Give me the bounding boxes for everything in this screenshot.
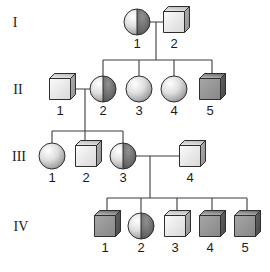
member-II-2-number: 2 [99,103,106,118]
pedigree-member-II-1 [50,74,76,100]
pedigree-member-I-1 [124,9,150,35]
member-III-1-number: 1 [48,170,55,185]
cube-right-face [71,74,76,100]
member-IV-5-number: 5 [241,240,248,255]
member-IV-2-number: 2 [137,240,144,255]
cube-front-face [200,216,221,237]
cube-right-face [221,74,226,100]
pedigree-member-III-3 [110,143,136,169]
member-IV-3-number: 3 [171,240,178,255]
cube-front-face [235,216,256,237]
pedigree-member-I-2 [164,7,190,33]
pedigree-member-IV-4 [200,211,226,237]
cube-front-face [165,216,186,237]
member-I-2-number: 2 [170,36,177,51]
member-II-5-number: 5 [206,103,213,118]
member-III-3-number: 3 [119,170,126,185]
cube-front-face [180,146,201,167]
member-I-1-number: 1 [133,36,140,51]
cube-right-face [97,141,102,167]
pedigree-member-II-5 [200,74,226,100]
pedigree-member-II-4 [161,76,187,102]
pedigree-member-III-2 [76,141,102,167]
cube-right-face [116,211,121,237]
pedigree-member-IV-1 [95,211,121,237]
member-III-2-number: 2 [82,170,89,185]
pedigree-member-IV-3 [165,211,191,237]
carrier-dark-half [123,143,136,169]
generation-label-IV: IV [14,219,29,234]
pedigree-member-II-2 [90,76,116,102]
member-IV-4-number: 4 [206,240,213,255]
pedigree-member-IV-5 [235,211,261,237]
family-connector-lines [52,22,247,226]
pedigree-figure: 1212345123412345IIIIIIIV [0,0,270,272]
pedigree-member-IV-2 [128,213,154,239]
generation-label-I: I [13,15,18,30]
cube-front-face [95,216,116,237]
member-III-4-number: 4 [186,170,193,185]
cube-right-face [185,7,190,33]
cube-right-face [186,211,191,237]
pedigree-member-III-1 [39,143,65,169]
carrier-dark-half [137,9,150,35]
member-shapes [39,7,261,240]
cube-right-face [201,141,206,167]
cube-front-face [50,79,71,100]
generation-label-III: III [12,149,26,164]
cube-front-face [200,79,221,100]
cube-front-face [164,12,185,33]
cube-front-face [76,146,97,167]
pedigree-chart-svg: 1212345123412345IIIIIIIV [0,0,270,272]
carrier-dark-half [141,213,154,239]
cube-right-face [256,211,261,237]
carrier-dark-half [103,76,116,102]
generation-label-II: II [13,82,23,97]
cube-right-face [221,211,226,237]
member-II-4-number: 4 [170,103,177,118]
pedigree-member-III-4 [180,141,206,167]
member-II-3-number: 3 [135,103,142,118]
member-II-1-number: 1 [56,103,63,118]
pedigree-member-II-3 [126,76,152,102]
member-IV-1-number: 1 [101,240,108,255]
